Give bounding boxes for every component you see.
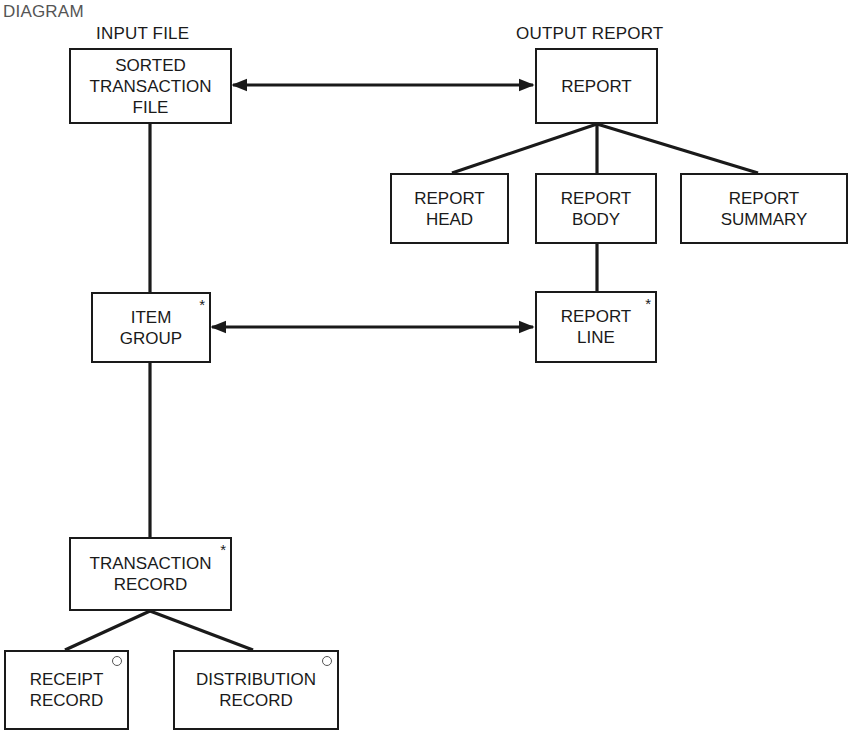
iteration-asterisk-icon: *	[220, 542, 226, 557]
node-label-line: BODY	[572, 209, 620, 230]
node-item-group: ITEM GROUP *	[91, 292, 211, 363]
edge-transaction-to-receipt	[65, 611, 150, 650]
node-transaction-record: TRANSACTION RECORD *	[69, 537, 232, 611]
edge-report-to-head	[452, 124, 597, 173]
iteration-asterisk-icon: *	[199, 297, 205, 312]
edge-transaction-to-distribution	[150, 611, 253, 650]
node-label-line: TRANSACTION	[90, 553, 212, 574]
node-label-line: ITEM	[131, 307, 172, 328]
node-report-body: REPORT BODY	[535, 173, 657, 244]
node-label-line: RECORD	[114, 574, 188, 595]
node-label-line: TRANSACTION	[90, 76, 212, 97]
diagram-title: DIAGRAM	[3, 2, 84, 22]
output-report-heading: OUTPUT REPORT	[516, 24, 663, 44]
node-report-head: REPORT HEAD	[390, 173, 509, 244]
node-receipt-record: RECEIPT RECORD	[4, 650, 129, 730]
node-label-line: RECORD	[30, 690, 104, 711]
selection-circle-icon	[322, 656, 332, 666]
input-file-heading: INPUT FILE	[96, 24, 189, 44]
node-report-summary: REPORT SUMMARY	[680, 173, 848, 244]
node-label-line: REPORT	[729, 188, 800, 209]
node-label-line: FILE	[133, 97, 169, 118]
node-label-line: SUMMARY	[721, 209, 808, 230]
node-report: REPORT	[535, 48, 658, 124]
node-label-line: DISTRIBUTION	[196, 669, 316, 690]
iteration-asterisk-icon: *	[645, 296, 651, 311]
node-label-line: REPORT	[414, 188, 485, 209]
node-distribution-record: DISTRIBUTION RECORD	[173, 650, 339, 730]
node-label-line: REPORT	[561, 306, 632, 327]
node-label-line: REPORT	[561, 188, 632, 209]
node-sorted-transaction-file: SORTED TRANSACTION FILE	[69, 48, 232, 124]
node-label-line: REPORT	[561, 76, 632, 97]
node-label-line: SORTED	[115, 55, 186, 76]
node-label-line: RECORD	[219, 690, 293, 711]
node-label-line: GROUP	[120, 328, 182, 349]
node-report-line: REPORT LINE *	[535, 291, 657, 363]
edge-report-to-summary	[597, 124, 758, 173]
selection-circle-icon	[112, 656, 122, 666]
node-label-line: HEAD	[426, 209, 473, 230]
node-label-line: RECEIPT	[30, 669, 104, 690]
node-label-line: LINE	[577, 327, 615, 348]
